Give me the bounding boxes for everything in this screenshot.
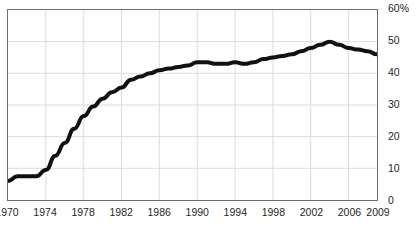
- x-axis-tick-label: 2009: [366, 206, 389, 218]
- series-path: [8, 42, 377, 181]
- plot-area: [7, 9, 378, 201]
- x-axis-tick-label: 1986: [148, 206, 171, 218]
- y-axis-tick-label: 10: [388, 163, 400, 174]
- y-axis-tick-label: 60%: [388, 3, 409, 14]
- y-axis-tick-label: 20: [388, 131, 400, 142]
- x-axis-tick-label: 1974: [33, 206, 56, 218]
- data-series-line: [8, 10, 377, 200]
- y-axis-tick-label: 50: [388, 35, 400, 46]
- y-axis-tick-label: 40: [388, 67, 400, 78]
- x-axis-tick-label: 1982: [109, 206, 132, 218]
- line-chart: 60%50403020100 1970197419781982198619901…: [0, 0, 419, 236]
- y-axis-tick-label: 0: [388, 195, 394, 206]
- x-axis-tick-label: 1978: [71, 206, 94, 218]
- x-axis-tick-label: 1970: [0, 206, 19, 218]
- y-axis-tick-label: 30: [388, 99, 400, 110]
- x-axis-tick-label: 1990: [186, 206, 209, 218]
- x-axis-tick-label: 2002: [300, 206, 323, 218]
- x-axis-tick-label: 1998: [262, 206, 285, 218]
- x-axis-tick-label: 1994: [224, 206, 247, 218]
- x-axis-tick-label: 2006: [338, 206, 361, 218]
